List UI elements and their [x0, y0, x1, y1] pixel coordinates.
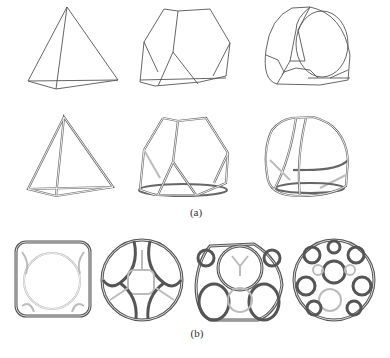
figure-canvas: [0, 0, 390, 358]
panel-a-caption: (a): [185, 206, 207, 218]
tetrahedron-wireframe: [28, 7, 118, 89]
tetrahedron-tube: [28, 117, 113, 196]
truncated-icosahedron-frame: [196, 244, 282, 320]
truncated-tetrahedron-wireframe: [140, 9, 230, 86]
rounded-cube-frame: [16, 242, 90, 316]
rhombicosidodecahedron-frame: [294, 240, 374, 320]
rounded-truncated-tube: [266, 117, 348, 196]
panel-b-caption: (b): [186, 327, 208, 339]
rounded-truncated-wireframe: [265, 7, 350, 85]
truncated-tetrahedron-tube: [139, 118, 228, 196]
truncated-octahedron-frame: [102, 240, 182, 320]
